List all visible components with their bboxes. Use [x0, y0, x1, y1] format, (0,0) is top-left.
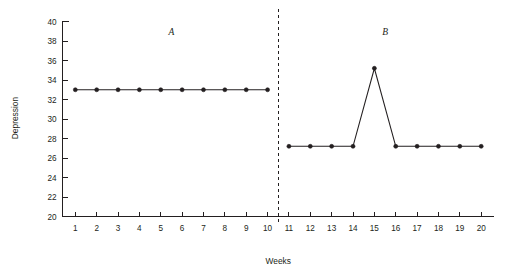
x-tick-label: 3: [116, 224, 121, 233]
phase-label-b: B: [382, 27, 388, 37]
data-point-marker: [244, 88, 248, 92]
data-point-marker: [116, 88, 120, 92]
data-point-marker: [266, 88, 270, 92]
x-tick-label: 5: [158, 224, 163, 233]
chart-figure: 2022242628303234363840 12345678910111213…: [0, 0, 509, 278]
y-axis-title: Depression: [10, 96, 20, 139]
y-tick-label: 22: [47, 193, 57, 202]
x-tick-label: 18: [434, 224, 444, 233]
data-point-marker: [137, 88, 141, 92]
x-tick-label: 12: [306, 224, 316, 233]
y-axis-ticks: 2022242628303234363840: [47, 18, 67, 222]
y-tick-label: 26: [47, 154, 57, 163]
y-tick-label: 36: [47, 57, 57, 66]
y-tick-label: 28: [47, 135, 57, 144]
x-tick-label: 7: [201, 224, 206, 233]
x-axis-ticks: 1234567891011121314151617181920: [73, 212, 486, 233]
y-tick-label: 32: [47, 96, 57, 105]
y-tick-label: 20: [47, 213, 57, 222]
data-point-marker: [223, 88, 227, 92]
x-axis-title: Weeks: [266, 256, 291, 266]
x-tick-label: 20: [477, 224, 487, 233]
y-tick-label: 24: [47, 174, 57, 183]
x-tick-label: 10: [263, 224, 273, 233]
data-point-marker: [394, 144, 398, 148]
x-tick-label: 16: [391, 224, 401, 233]
y-tick-label: 40: [47, 18, 57, 27]
x-tick-label: 4: [137, 224, 142, 233]
y-tick-label: 34: [47, 76, 57, 85]
data-point-marker: [73, 88, 77, 92]
x-tick-label: 8: [223, 224, 228, 233]
data-point-marker: [95, 88, 99, 92]
x-tick-label: 19: [455, 224, 465, 233]
x-tick-label: 11: [285, 224, 294, 233]
data-point-marker: [479, 144, 483, 148]
x-tick-label: 15: [370, 224, 380, 233]
x-tick-label: 6: [180, 224, 185, 233]
data-point-marker: [287, 144, 291, 148]
x-tick-label: 2: [94, 224, 99, 233]
x-tick-label: 17: [413, 224, 423, 233]
data-point-marker: [159, 88, 163, 92]
data-point-marker: [372, 66, 376, 70]
phase-label-a: A: [168, 27, 175, 37]
x-tick-label: 1: [73, 224, 78, 233]
x-tick-label: 13: [327, 224, 337, 233]
data-point-marker: [458, 144, 462, 148]
data-point-marker: [201, 88, 205, 92]
data-point-marker: [415, 144, 419, 148]
y-tick-label: 30: [47, 115, 57, 124]
y-tick-label: 38: [47, 37, 57, 46]
depression-line-chart: 2022242628303234363840 12345678910111213…: [0, 0, 509, 278]
data-point-marker: [330, 144, 334, 148]
series-line: [289, 68, 481, 146]
data-point-marker: [180, 88, 184, 92]
data-point-marker: [351, 144, 355, 148]
x-tick-label: 9: [244, 224, 249, 233]
data-point-marker: [436, 144, 440, 148]
data-point-marker: [308, 144, 312, 148]
x-tick-label: 14: [348, 224, 358, 233]
